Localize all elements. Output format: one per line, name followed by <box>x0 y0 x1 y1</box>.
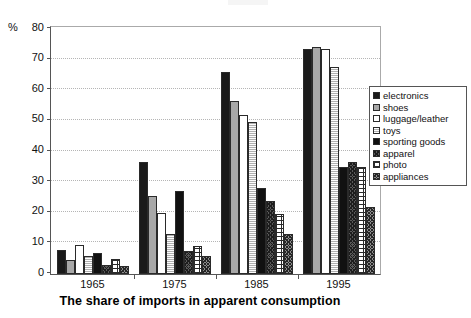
legend-swatch-icon-photo <box>373 161 380 168</box>
bar-electronics-1965 <box>57 250 66 275</box>
bar-shoes-1965 <box>66 260 75 274</box>
bar-apparel-1985 <box>266 201 275 275</box>
bar-sporting-goods-1995 <box>339 167 348 274</box>
legend-item-luggage-leather[interactable]: luggage/leather <box>373 113 463 125</box>
legend-item-toys[interactable]: toys <box>373 125 463 137</box>
bar-appliances-1985 <box>284 234 293 274</box>
y-axis-labels: 01020304050607080 <box>0 0 50 318</box>
x-tick-mark-3 <box>298 275 299 279</box>
y-tick-label-80: 80 <box>0 22 44 33</box>
y-tick-mark-10 <box>47 241 51 242</box>
y-tick-mark-60 <box>47 88 51 89</box>
bar-group-1985 <box>216 27 298 274</box>
bar-luggage-leather-1975 <box>157 213 166 274</box>
legend-item-shoes[interactable]: shoes <box>373 102 463 114</box>
bar-toys-1975 <box>166 234 175 274</box>
y-tick-label-40: 40 <box>0 144 44 155</box>
bar-toys-1985 <box>248 122 257 274</box>
bar-group-1965 <box>52 27 134 274</box>
bar-sporting-goods-1985 <box>257 188 266 274</box>
y-tick-label-50: 50 <box>0 113 44 124</box>
x-tick-label-1985: 1985 <box>216 278 298 290</box>
bar-luggage-leather-1965 <box>75 245 84 274</box>
bar-apparel-1975 <box>184 251 193 274</box>
legend-item-label: appliances <box>383 172 428 182</box>
bar-group-1995 <box>298 27 380 274</box>
x-tick-mark-2 <box>216 275 217 279</box>
legend-swatch-icon-electronics <box>373 92 380 99</box>
y-tick-mark-80 <box>47 27 51 28</box>
y-tick-mark-70 <box>47 58 51 59</box>
legend-item-label: toys <box>383 126 400 136</box>
bar-appliances-1965 <box>120 266 129 274</box>
bar-luggage-leather-1985 <box>239 115 248 274</box>
bar-electronics-1975 <box>139 162 148 274</box>
y-tick-label-0: 0 <box>0 267 44 278</box>
bar-groups <box>52 27 380 274</box>
y-tick-label-60: 60 <box>0 83 44 94</box>
scan-artifact <box>228 0 268 5</box>
bar-sporting-goods-1965 <box>93 253 102 274</box>
legend: electronicsshoesluggage/leathertoyssport… <box>369 86 467 186</box>
bar-luggage-leather-1995 <box>321 49 330 274</box>
bar-electronics-1995 <box>303 49 312 274</box>
legend-swatch-icon-sporting-goods <box>373 138 380 145</box>
bar-photo-1975 <box>193 246 202 274</box>
bar-apparel-1965 <box>102 265 111 274</box>
y-tick-mark-0 <box>47 272 51 273</box>
x-tick-label-1995: 1995 <box>298 278 380 290</box>
bar-shoes-1975 <box>148 196 157 274</box>
bar-photo-1995 <box>357 167 366 274</box>
legend-swatch-icon-appliances <box>373 173 380 180</box>
bar-group-1975 <box>134 27 216 274</box>
bar-electronics-1985 <box>221 72 230 274</box>
bar-shoes-1995 <box>312 47 321 274</box>
legend-item-label: luggage/leather <box>383 114 449 124</box>
x-tick-label-1975: 1975 <box>134 278 216 290</box>
x-axis-labels: 1965197519851995 <box>52 278 380 290</box>
legend-item-label: apparel <box>383 149 415 159</box>
y-tick-label-70: 70 <box>0 52 44 63</box>
legend-item-label: photo <box>383 160 407 170</box>
legend-item-label: sporting goods <box>383 137 445 147</box>
y-tick-label-10: 10 <box>0 236 44 247</box>
legend-item-label: shoes <box>383 103 408 113</box>
x-tick-label-1965: 1965 <box>52 278 134 290</box>
legend-item-electronics[interactable]: electronics <box>373 90 463 102</box>
y-tick-mark-20 <box>47 211 51 212</box>
y-tick-label-20: 20 <box>0 205 44 216</box>
bar-photo-1985 <box>275 214 284 274</box>
y-tick-mark-40 <box>47 150 51 151</box>
y-tick-mark-30 <box>47 180 51 181</box>
bar-photo-1965 <box>111 259 120 274</box>
bar-shoes-1985 <box>230 101 239 274</box>
bar-toys-1965 <box>84 256 93 274</box>
legend-swatch-icon-luggage-leather <box>373 115 380 122</box>
bar-apparel-1995 <box>348 162 357 274</box>
bar-sporting-goods-1975 <box>175 191 184 274</box>
bar-chart: % 01020304050607080 1965197519851995 The… <box>0 0 471 318</box>
legend-swatch-icon-apparel <box>373 150 380 157</box>
legend-swatch-icon-shoes <box>373 104 380 111</box>
bar-appliances-1995 <box>366 207 375 274</box>
bar-toys-1995 <box>330 67 339 274</box>
chart-title: The share of imports in apparent consump… <box>0 294 400 308</box>
legend-item-label: electronics <box>383 91 428 101</box>
legend-item-appliances[interactable]: appliances <box>373 171 463 183</box>
legend-swatch-icon-toys <box>373 127 380 134</box>
y-tick-label-30: 30 <box>0 175 44 186</box>
legend-item-sporting-goods[interactable]: sporting goods <box>373 136 463 148</box>
legend-item-apparel[interactable]: apparel <box>373 148 463 160</box>
y-tick-mark-50 <box>47 119 51 120</box>
x-tick-mark-1 <box>134 275 135 279</box>
legend-item-photo[interactable]: photo <box>373 159 463 171</box>
bar-appliances-1975 <box>202 256 211 274</box>
